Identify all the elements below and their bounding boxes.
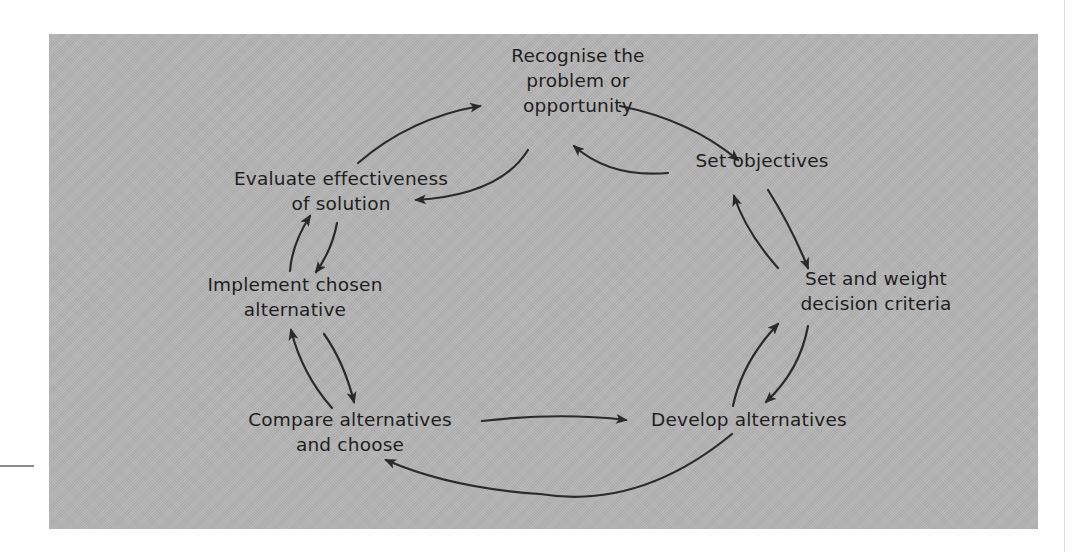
step-evaluate-effectiveness: Evaluate effectiveness of solution [214, 166, 468, 216]
step-label-line: Set objectives [682, 148, 842, 173]
step-label-line: Set and weight [776, 266, 976, 291]
step-compare-alternatives: Compare alternatives and choose [226, 407, 474, 457]
step-label-line: Develop alternatives [634, 407, 864, 432]
step-develop-alternatives: Develop alternatives [634, 407, 864, 432]
step-label-line: opportunity [470, 93, 686, 118]
step-set-objectives: Set objectives [682, 148, 842, 173]
page-edge-rule [1064, 0, 1065, 552]
step-label-line: Implement chosen [182, 272, 408, 297]
step-label-line: of solution [214, 191, 468, 216]
step-label-line: Recognise the [470, 43, 686, 68]
step-label-line: and choose [226, 432, 474, 457]
step-label-line: Compare alternatives [226, 407, 474, 432]
step-implement-alternative: Implement chosen alternative [182, 272, 408, 322]
step-label-line: alternative [182, 297, 408, 322]
margin-rule-left [0, 465, 34, 467]
step-label-line: Evaluate effectiveness [214, 166, 468, 191]
step-set-criteria: Set and weight decision criteria [776, 266, 976, 316]
step-label-line: decision criteria [776, 291, 976, 316]
step-recognise-problem: Recognise the problem or opportunity [470, 43, 686, 118]
step-label-line: problem or [470, 68, 686, 93]
